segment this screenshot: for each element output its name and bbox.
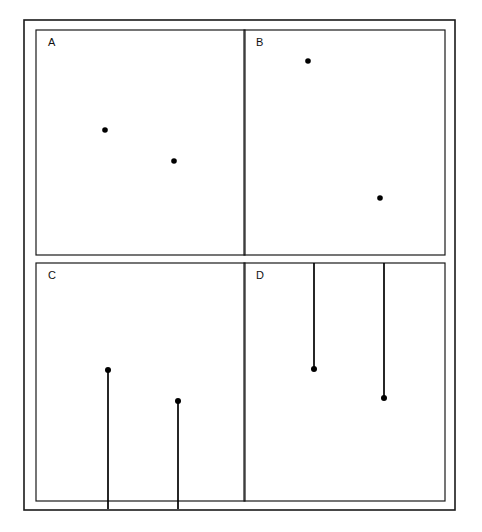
- figure-canvas: A B C D: [0, 0, 482, 532]
- panel-c-label: C: [48, 269, 56, 281]
- panel-a-label: A: [48, 36, 56, 48]
- panel-d-label: D: [256, 269, 264, 281]
- panel-c-marker: [105, 367, 111, 373]
- panel-b-marker: [305, 58, 311, 64]
- panel-a-marker: [171, 158, 177, 164]
- figure-container: A B C D: [0, 0, 482, 532]
- panel-d-marker: [311, 366, 317, 372]
- figure-background: [0, 0, 482, 532]
- panel-c-marker: [175, 398, 181, 404]
- panel-b-marker: [377, 195, 383, 201]
- panel-a-marker: [102, 127, 108, 133]
- panel-d-marker: [381, 395, 387, 401]
- panel-b-label: B: [256, 36, 263, 48]
